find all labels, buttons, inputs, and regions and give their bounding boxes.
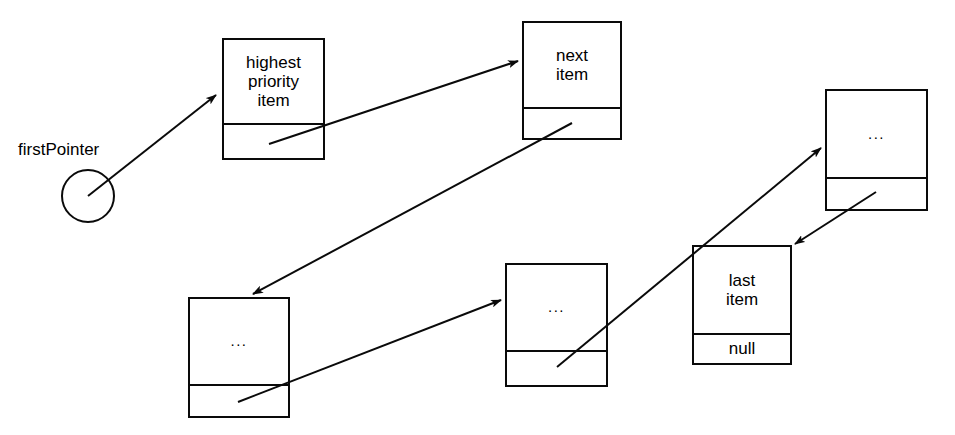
node-data-cell: ... — [827, 91, 926, 179]
node-data-cell: last item — [694, 247, 790, 335]
node-last-item: last item null — [692, 245, 792, 365]
node-pointer-cell — [827, 179, 926, 209]
node-data-cell: next item — [524, 23, 620, 109]
diagram-vector-layer — [0, 0, 955, 435]
node-data-cell: ... — [190, 299, 288, 386]
node-pointer-cell — [524, 109, 620, 138]
node-data-cell: ... — [507, 265, 606, 352]
node-pointer-cell: null — [694, 335, 790, 363]
arrow-firstpointer-to-highest — [88, 95, 216, 196]
linked-list-diagram: firstPointer highest priority item next … — [0, 0, 955, 435]
node-pointer-cell — [190, 386, 288, 416]
node-ellipsis-bottom-left: ... — [188, 297, 290, 418]
node-pointer-cell — [224, 125, 323, 158]
first-pointer-label: firstPointer — [18, 140, 99, 160]
node-ellipsis-bottom-middle: ... — [505, 263, 608, 387]
node-pointer-cell — [507, 352, 606, 385]
node-ellipsis-right: ... — [825, 89, 928, 211]
node-highest-priority-item: highest priority item — [222, 38, 325, 160]
node-next-item: next item — [522, 21, 622, 140]
node-data-cell: highest priority item — [224, 40, 323, 125]
